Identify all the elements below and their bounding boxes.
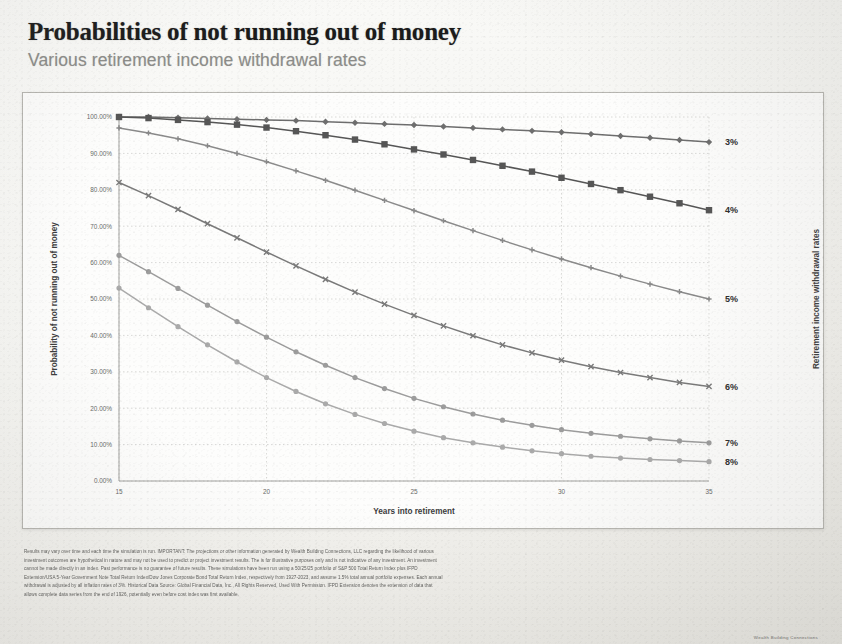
data-point-marker xyxy=(706,440,711,445)
data-point-marker xyxy=(116,114,122,120)
data-point-marker xyxy=(382,386,387,391)
y-axis-tick-label: 100.00% xyxy=(87,113,113,120)
x-axis-tick-label: 20 xyxy=(263,488,271,495)
data-point-marker xyxy=(499,163,505,169)
data-point-marker xyxy=(706,459,711,464)
series-line xyxy=(119,117,709,210)
data-point-marker xyxy=(588,454,593,459)
data-point-marker xyxy=(529,128,535,134)
data-point-marker xyxy=(411,146,417,152)
data-point-marker xyxy=(647,281,652,286)
data-point-marker xyxy=(470,228,475,233)
data-point-marker xyxy=(293,349,298,354)
data-point-marker xyxy=(323,401,328,406)
series-end-label: 3% xyxy=(725,137,738,147)
data-point-marker xyxy=(145,115,151,121)
y-axis-tick-label: 10.00% xyxy=(90,441,112,448)
chart-frame: 0.00%10.00%20.00%30.00%40.00%50.00%60.00… xyxy=(22,92,824,529)
disclaimer-line-4: Extension/USA 5-Year Government Note Tot… xyxy=(24,574,820,581)
y-axis-tick-label: 60.00% xyxy=(90,259,112,266)
data-point-marker xyxy=(116,285,121,290)
data-point-marker xyxy=(559,451,564,456)
series-end-label: 7% xyxy=(725,438,738,448)
data-point-marker xyxy=(618,455,623,460)
data-point-marker xyxy=(441,218,446,223)
y-axis-tick-label: 20.00% xyxy=(90,405,112,412)
y-axis-tick-label: 70.00% xyxy=(90,223,112,230)
x-axis-tick-label: 30 xyxy=(558,488,566,495)
data-point-marker xyxy=(234,359,239,364)
data-point-marker xyxy=(293,263,298,268)
data-point-marker xyxy=(470,440,475,445)
data-point-marker xyxy=(470,411,475,416)
series-end-label: 5% xyxy=(725,294,738,304)
data-point-marker xyxy=(647,436,652,441)
y-axis-right-title: Retirement income withdrawal rates xyxy=(812,228,821,369)
data-point-marker xyxy=(676,200,682,206)
data-point-marker xyxy=(529,448,534,453)
data-point-marker xyxy=(470,157,476,163)
series-end-label: 8% xyxy=(725,457,738,467)
y-axis-tick-label: 90.00% xyxy=(90,150,112,157)
data-point-marker xyxy=(382,421,387,426)
data-point-marker xyxy=(263,117,269,123)
data-point-marker xyxy=(234,151,239,156)
data-point-marker xyxy=(617,187,623,193)
data-point-marker xyxy=(293,117,299,123)
data-point-marker xyxy=(175,324,180,329)
data-point-marker xyxy=(500,445,505,450)
data-point-marker xyxy=(352,375,357,380)
data-point-marker xyxy=(293,168,298,173)
y-axis-tick-label: 0.00% xyxy=(94,477,112,484)
line-chart: 0.00%10.00%20.00%30.00%40.00%50.00%60.00… xyxy=(23,93,823,528)
data-point-marker xyxy=(204,119,210,125)
data-point-marker xyxy=(175,117,181,123)
y-axis-tick-label: 30.00% xyxy=(90,368,112,375)
data-point-marker xyxy=(500,418,505,423)
data-point-marker xyxy=(264,335,269,340)
disclaimer-line-6: allows complete data series from the end… xyxy=(24,591,820,598)
data-point-marker xyxy=(146,130,151,135)
y-axis-title: Probability of not running out of money xyxy=(50,222,59,376)
data-point-marker xyxy=(205,143,210,148)
data-point-marker xyxy=(677,458,682,463)
data-point-marker xyxy=(588,431,593,436)
page-title: Probabilities of not running out of mone… xyxy=(28,18,668,46)
data-point-marker xyxy=(234,121,240,127)
data-point-marker xyxy=(264,159,269,164)
data-point-marker xyxy=(441,435,446,440)
data-point-marker xyxy=(175,136,180,141)
y-axis-tick-label: 80.00% xyxy=(90,186,112,193)
data-point-marker xyxy=(558,129,564,135)
data-point-marker xyxy=(322,119,328,125)
data-point-marker xyxy=(323,178,328,183)
x-axis-tick-label: 35 xyxy=(705,488,713,495)
data-point-marker xyxy=(382,198,387,203)
series-end-label: 6% xyxy=(725,382,738,392)
data-point-marker xyxy=(618,434,623,439)
x-axis-tick-label: 25 xyxy=(410,488,418,495)
data-point-marker xyxy=(706,139,712,145)
data-point-marker xyxy=(146,193,151,198)
footer-mark: Wealth Building Connections xyxy=(754,635,818,640)
data-point-marker xyxy=(411,429,416,434)
data-point-marker xyxy=(529,247,534,252)
disclaimer-line-1: Results may vary over time and each time… xyxy=(24,548,820,555)
x-axis-title: Years into retirement xyxy=(373,507,455,516)
data-point-marker xyxy=(381,141,387,147)
data-point-marker xyxy=(706,296,711,301)
data-point-marker xyxy=(322,132,328,138)
chart-plot-area: 0.00%10.00%20.00%30.00%40.00%50.00%60.00… xyxy=(23,93,823,528)
data-point-marker xyxy=(352,188,357,193)
data-point-marker xyxy=(647,457,652,462)
data-point-marker xyxy=(293,128,299,134)
data-point-marker xyxy=(263,124,269,130)
data-point-marker xyxy=(588,131,594,137)
data-point-marker xyxy=(381,121,387,127)
x-axis-tick-label: 15 xyxy=(115,488,123,495)
data-point-marker xyxy=(234,319,239,324)
y-axis-tick-label: 40.00% xyxy=(90,332,112,339)
data-point-marker xyxy=(499,126,505,132)
data-point-marker xyxy=(441,404,446,409)
data-point-marker xyxy=(676,137,682,143)
